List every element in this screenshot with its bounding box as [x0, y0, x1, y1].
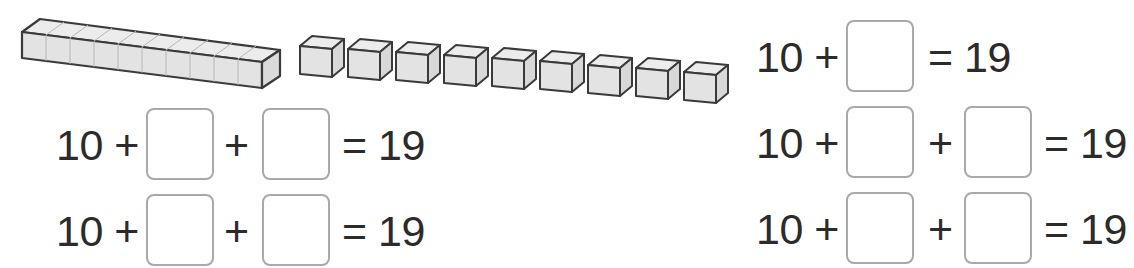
equation-prefix: 10 + — [56, 210, 139, 253]
unit-cube-icon — [684, 62, 728, 103]
unit-cube-icon — [348, 39, 392, 80]
equation-result: = 19 — [1044, 208, 1127, 251]
unit-cube-icon — [540, 51, 584, 92]
equation-result: = 19 — [342, 210, 425, 253]
base-ten-blocks-illustration — [0, 0, 740, 110]
plus-sign: + — [928, 208, 953, 251]
equation-prefix: 10 + — [756, 122, 839, 165]
plus-sign: + — [928, 122, 953, 165]
answer-box-1[interactable] — [146, 108, 214, 180]
equation-prefix: 10 + — [56, 124, 139, 167]
plus-sign: + — [224, 210, 249, 253]
equation-prefix: 10 + — [756, 208, 839, 251]
equation-result: = 19 — [928, 36, 1011, 79]
answer-box-1[interactable] — [846, 192, 914, 264]
ten-rod-icon — [22, 19, 280, 88]
answer-box-1[interactable] — [846, 20, 914, 92]
answer-box-1[interactable] — [146, 194, 214, 266]
unit-cubes — [300, 36, 728, 103]
unit-cube-icon — [300, 36, 344, 77]
unit-cube-icon — [588, 55, 632, 96]
unit-cube-icon — [636, 58, 680, 99]
unit-cube-icon — [444, 45, 488, 86]
plus-sign: + — [224, 124, 249, 167]
equation-result: = 19 — [1044, 122, 1127, 165]
answer-box-2[interactable] — [964, 192, 1032, 264]
answer-box-1[interactable] — [846, 106, 914, 178]
equation-result: = 19 — [342, 124, 425, 167]
answer-box-2[interactable] — [262, 194, 330, 266]
answer-box-2[interactable] — [262, 108, 330, 180]
answer-box-2[interactable] — [964, 106, 1032, 178]
equation-prefix: 10 + — [756, 36, 839, 79]
unit-cube-icon — [396, 42, 440, 83]
unit-cube-icon — [492, 48, 536, 89]
